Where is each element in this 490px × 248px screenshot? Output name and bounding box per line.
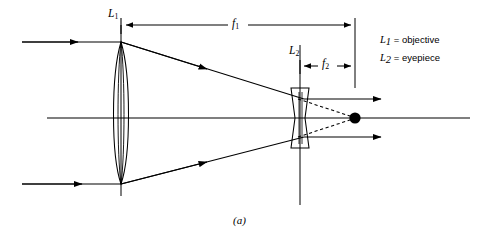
label-lens-L1-subscript: 1 (114, 12, 118, 21)
focal-point-dot (349, 112, 360, 123)
legend-row-eyepiece: L2 = eyepiece (380, 50, 440, 68)
label-focal-f1-subscript: 1 (235, 22, 239, 31)
figure-caption: (a) (233, 214, 246, 226)
legend-text-eyepiece: eyepiece (402, 52, 440, 63)
legend-text-objective: objective (402, 34, 440, 45)
label-focal-f2-subscript: 2 (325, 62, 329, 71)
converging-ray-top-arrow (121, 42, 207, 69)
label-focal-f2: f2 (322, 58, 329, 71)
converging-ray-bottom-arrow (121, 162, 207, 184)
label-lens-L2: L2 (289, 45, 299, 58)
label-lens-L1: L1 (108, 8, 118, 21)
label-lens-L2-subscript: 2 (295, 49, 299, 58)
legend-row-objective: L1 = objective (380, 32, 440, 50)
legend: L1 = objective L2 = eyepiece (380, 32, 440, 67)
optics-figure: L1 L2 f1 f2 L1 = objective L2 = eyepiece… (0, 0, 490, 248)
label-focal-f1: f1 (232, 18, 239, 31)
